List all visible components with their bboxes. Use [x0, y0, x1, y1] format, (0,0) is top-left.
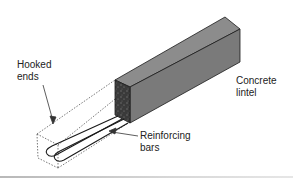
hooked-ends-label: Hooked ends: [17, 59, 51, 83]
reinforcing-bars-label: Reinforcing bars: [140, 130, 191, 154]
reinforcing-bars-arrow: [109, 128, 138, 136]
bottom-divider: [0, 176, 293, 178]
concrete-lintel-body: [115, 17, 240, 123]
hooked-ends-arrow: [43, 85, 56, 124]
reinforcing-bars: [46, 116, 128, 161]
concrete-lintel-label: Concrete lintel: [236, 75, 277, 99]
